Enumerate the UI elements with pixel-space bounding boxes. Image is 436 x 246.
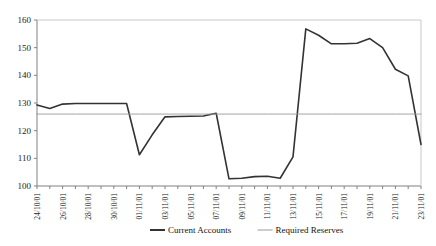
x-axis-label: 30/10/01 — [110, 193, 119, 220]
chart-svg: 100110120130140150160 24/10/0126/10/0128… — [0, 0, 436, 246]
y-axis-label: 110 — [18, 153, 32, 163]
x-axis-label: 01/11/01 — [135, 193, 144, 220]
x-axis-label: 03/11/01 — [161, 193, 170, 220]
x-axis-label: 17/11/01 — [340, 193, 349, 220]
x-axis-label: 09/11/01 — [238, 193, 247, 220]
y-axis-label: 140 — [18, 70, 32, 80]
y-axis-label: 160 — [18, 15, 32, 25]
line-chart: 100110120130140150160 24/10/0126/10/0128… — [0, 0, 436, 246]
series-line — [37, 29, 421, 179]
x-axis-label: 23/11/01 — [417, 193, 426, 220]
legend-label: Required Reserves — [276, 225, 344, 235]
chart-legend: Current AccountsRequired Reserves — [150, 225, 344, 235]
series-layer — [37, 29, 421, 179]
y-axis-label: 130 — [18, 98, 32, 108]
chart-canvas: 100110120130140150160 24/10/0126/10/0128… — [0, 0, 436, 246]
y-axis-label: 100 — [18, 181, 32, 191]
x-axis-label: 15/11/01 — [315, 193, 324, 220]
x-axis-label: 05/11/01 — [187, 193, 196, 220]
x-axis-label: 19/11/01 — [366, 193, 375, 220]
x-axis-label: 13/11/01 — [289, 193, 298, 220]
y-axis-labels: 100110120130140150160 — [18, 15, 32, 191]
x-axis-label: 11/11/01 — [263, 193, 272, 219]
x-axis-label: 21/11/01 — [391, 193, 400, 220]
x-axis-label: 26/10/01 — [59, 193, 68, 220]
y-axis-label: 150 — [18, 43, 32, 53]
x-axis-label: 07/11/01 — [212, 193, 221, 220]
y-axis-label: 120 — [18, 126, 32, 136]
x-axis-label: 24/10/01 — [33, 193, 42, 220]
x-axis-labels: 24/10/0126/10/0128/10/0130/10/0101/11/01… — [33, 193, 426, 220]
legend-label: Current Accounts — [168, 225, 232, 235]
x-axis-label: 28/10/01 — [84, 193, 93, 220]
